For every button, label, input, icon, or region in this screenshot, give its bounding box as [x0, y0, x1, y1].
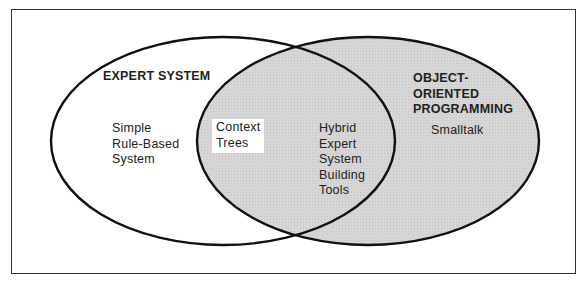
- title-line: PROGRAMMING: [413, 102, 513, 118]
- list-item: Expert: [319, 137, 365, 153]
- object-oriented-programming-title: OBJECT- ORIENTED PROGRAMMING: [413, 71, 513, 118]
- list-item: Simple: [112, 121, 179, 137]
- list-item: System: [319, 152, 365, 168]
- list-item: Tools: [319, 183, 365, 199]
- title-line: ORIENTED: [413, 87, 513, 103]
- list-item: System: [112, 152, 179, 168]
- expert-system-title: EXPERT SYSTEM: [103, 69, 210, 85]
- smalltalk-item: Smalltalk: [431, 123, 484, 139]
- list-item: Trees: [216, 136, 260, 152]
- title-line: OBJECT-: [413, 71, 513, 87]
- intersection-items: Hybrid Expert System Building Tools: [319, 121, 365, 199]
- list-item: Rule-Based: [112, 137, 179, 153]
- list-item: Context: [216, 120, 260, 136]
- list-item: Building: [319, 168, 365, 184]
- list-item: Hybrid: [319, 121, 365, 137]
- context-trees-highlight: Context Trees: [212, 119, 264, 153]
- venn-diagram: [0, 0, 586, 283]
- expert-system-items: Simple Rule-Based System: [112, 121, 179, 168]
